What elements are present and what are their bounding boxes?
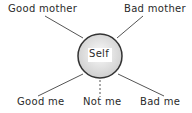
node-bad-mother: Bad mother bbox=[124, 3, 186, 14]
node-bad-me: Bad me bbox=[140, 96, 180, 107]
edge-bad-me bbox=[118, 74, 164, 96]
self-label: Self bbox=[89, 48, 109, 59]
node-not-me: Not me bbox=[83, 96, 121, 107]
edge-good-me bbox=[38, 74, 83, 96]
node-good-mother: Good mother bbox=[8, 3, 77, 14]
edge-bad-mother bbox=[117, 16, 143, 38]
node-good-me: Good me bbox=[17, 96, 65, 107]
edge-good-mother bbox=[45, 16, 83, 38]
